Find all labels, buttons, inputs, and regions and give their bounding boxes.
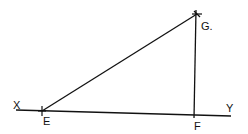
segment-fg (194, 10, 196, 118)
label-g: G. (201, 20, 213, 32)
label-x: X (13, 99, 21, 111)
label-y: Y (226, 102, 234, 114)
segment-eg (42, 14, 197, 111)
diagram-canvas: X Y E F G. (0, 0, 248, 134)
label-e: E (43, 115, 50, 127)
label-f: F (194, 120, 201, 132)
